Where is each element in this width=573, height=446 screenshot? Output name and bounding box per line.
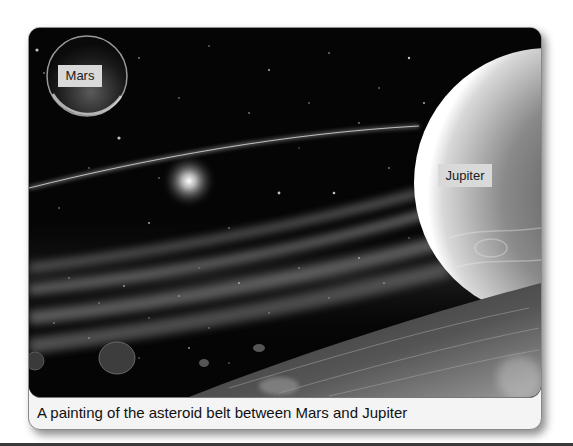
asteroid-rock	[99, 342, 135, 374]
asteroid-belt-painting: Mars Jupiter	[29, 28, 541, 398]
figure-caption: A painting of the asteroid belt between …	[29, 397, 541, 429]
jupiter-label: Jupiter	[438, 164, 492, 187]
figure-card: Mars Jupiter A painting of the asteroid …	[28, 27, 542, 430]
mars-label: Mars	[58, 65, 102, 87]
asteroid-rock	[29, 352, 44, 370]
sun-glow	[161, 153, 217, 209]
space-scene-illustration	[29, 28, 541, 397]
